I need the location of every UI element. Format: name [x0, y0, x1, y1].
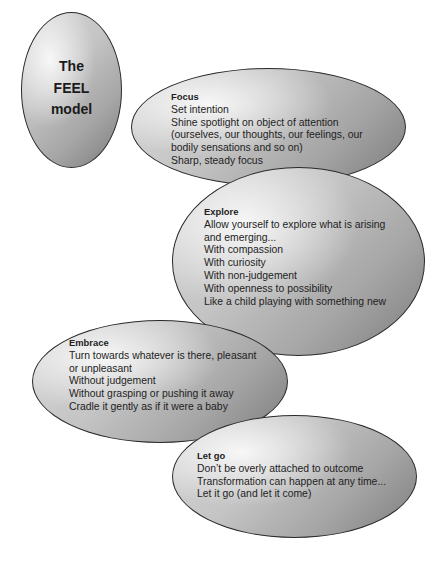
embrace-heading: Embrace — [69, 337, 256, 350]
explore-line: With compassion — [204, 244, 386, 257]
focus-line: bodily sensations and so on) — [171, 142, 363, 155]
title-line-2: FEEL — [21, 78, 122, 100]
embrace-line: Without grasping or pushing it away — [69, 388, 256, 401]
explore-line: Like a child playing with something new — [204, 296, 386, 309]
explore-line: With curiosity — [204, 257, 386, 270]
embrace-line: or unpleasant — [69, 363, 256, 376]
let-go-line: Transformation can happen at any time... — [197, 476, 386, 489]
explore-line: With non-judgement — [204, 270, 386, 283]
let-go-line: Don’t be overly attached to outcome — [197, 463, 386, 476]
explore-line: and emerging... — [204, 232, 386, 245]
embrace-text: Embrace Turn towards whatever is there, … — [69, 337, 256, 414]
embrace-line: Turn towards whatever is there, pleasant — [69, 350, 256, 363]
embrace-line: Without judgement — [69, 375, 256, 388]
focus-line: Shine spotlight on object of attention — [171, 117, 363, 130]
title-line-1: The — [21, 56, 122, 78]
focus-line: Sharp, steady focus — [171, 155, 363, 168]
focus-heading: Focus — [171, 91, 363, 104]
explore-heading: Explore — [204, 206, 386, 219]
let-go-heading: Let go — [197, 450, 386, 463]
title-line-3: model — [21, 99, 122, 121]
embrace-line: Cradle it gently as if it were a baby — [69, 401, 256, 414]
focus-line: Set intention — [171, 104, 363, 117]
explore-text: Explore Allow yourself to explore what i… — [204, 206, 386, 308]
explore-line: With openness to possibility — [204, 283, 386, 296]
focus-text: Focus Set intention Shine spotlight on o… — [171, 91, 363, 168]
let-go-text: Let go Don’t be overly attached to outco… — [197, 450, 386, 501]
feel-model-title: The FEEL model — [21, 56, 122, 121]
focus-line: (ourselves, our thoughts, our feelings, … — [171, 129, 363, 142]
explore-line: Allow yourself to explore what is arisin… — [204, 219, 386, 232]
let-go-line: Let it go (and let it come) — [197, 488, 386, 501]
